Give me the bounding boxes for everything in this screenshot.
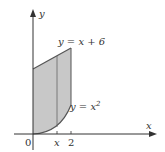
x-axis-arrow-icon — [149, 131, 157, 137]
region-diagram: y x 0 x 2 y = x + 6 y = x2 — [0, 0, 165, 152]
shaded-region — [33, 48, 71, 134]
y-axis-arrow-icon — [30, 9, 36, 17]
upper-curve-label: y = x + 6 — [57, 36, 106, 47]
lower-curve-label-exponent: 2 — [95, 100, 101, 108]
tick-label-x: x — [54, 137, 60, 148]
origin-label: 0 — [25, 137, 31, 148]
lower-curve-label-base: y = x — [69, 101, 96, 112]
tick-label-2: 2 — [68, 137, 74, 148]
x-axis-label: x — [146, 120, 152, 131]
lower-curve-label: y = x2 — [69, 100, 101, 112]
y-axis-label: y — [38, 8, 45, 19]
